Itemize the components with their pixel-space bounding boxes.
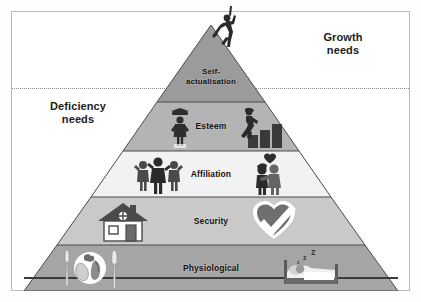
- tier-self-actualisation-label: Self- actualisation: [24, 67, 398, 86]
- tier-esteem-label: Esteem: [24, 121, 398, 131]
- tier-self-actualisation-label-line1: Self-: [24, 67, 398, 77]
- tier-affiliation-label: Affiliation: [24, 169, 398, 179]
- tier-security-label: Security: [24, 216, 398, 226]
- tier-affiliation[interactable]: Affiliation: [24, 151, 398, 197]
- tier-esteem[interactable]: Esteem: [24, 102, 398, 151]
- tier-security[interactable]: Security: [24, 197, 398, 245]
- svg-text:z: z: [311, 247, 316, 257]
- tier-physiological-label: Physiological: [24, 263, 398, 273]
- climbing-person-icon: [202, 4, 246, 50]
- needs-pyramid: Self- actualisation: [24, 14, 398, 280]
- tier-physiological[interactable]: z z z Physiological: [24, 245, 398, 291]
- diagram-canvas: Growth needs Deficiency needs: [0, 0, 421, 302]
- tier-self-actualisation-label-line2: actualisation: [24, 77, 398, 87]
- svg-text:z: z: [303, 254, 307, 261]
